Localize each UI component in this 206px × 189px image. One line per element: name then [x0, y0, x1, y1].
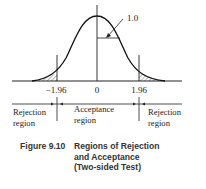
tick-label-left: −1.96 [46, 85, 67, 95]
figure-number: Figure 9.10 [20, 141, 74, 173]
caption-line-1: Regions of Rejection [74, 141, 159, 152]
caption-line-3: (Two-sided Test) [74, 162, 159, 173]
right-region-label-line2: region [148, 118, 171, 128]
figure-title: Regions of Rejection and Acceptance (Two… [74, 141, 159, 173]
left-region-label-line2: region [13, 118, 36, 128]
height-label: 1.0 [127, 13, 139, 23]
caption-line-2: and Acceptance [74, 152, 159, 163]
middle-region-label-line1: Acceptance [74, 104, 114, 114]
middle-region-label-line2: region [74, 115, 97, 125]
tick-label-center: 0 [95, 85, 100, 95]
arrow-right-divider-out [142, 103, 145, 106]
height-pointer-arrow [108, 19, 123, 36]
arrow-left-divider-out [60, 103, 63, 106]
figure-caption: Figure 9.10 Regions of Rejection and Acc… [20, 141, 159, 173]
right-region-label-line1: Rejection [148, 107, 182, 117]
tick-label-right: 1.96 [131, 85, 147, 95]
arrow-left-divider-in [51, 103, 54, 106]
arrow-right-divider-in [133, 103, 136, 106]
left-region-label-line1: Rejection [13, 107, 47, 117]
normal-curve [32, 16, 165, 81]
